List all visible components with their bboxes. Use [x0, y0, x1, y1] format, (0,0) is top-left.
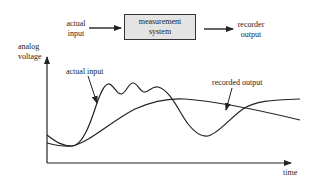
diagram-graphics	[0, 0, 315, 186]
recorded-output-curve	[47, 99, 300, 147]
recorded-output-pointer	[226, 88, 232, 110]
actual-input-curve	[47, 83, 300, 146]
actual-input-pointer	[88, 76, 97, 103]
